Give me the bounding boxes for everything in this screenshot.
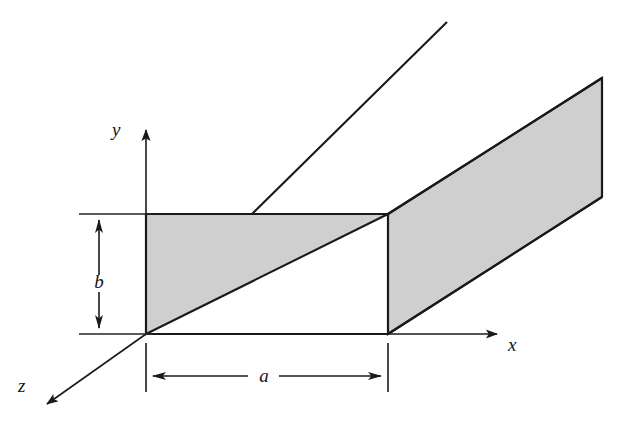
waveguide-far-wall-face [388,78,602,334]
waveguide-top-back-edge [252,22,447,214]
waveguide-diagram-canvas: y x z b a [0,0,626,436]
waveguide-figure: y x z b a [0,0,626,436]
z-axis-label: z [17,375,26,396]
y-axis-label: y [110,119,121,140]
dimension-a-label: a [259,365,269,386]
z-axis-arrow [47,334,146,404]
dimension-b-label: b [94,271,104,292]
x-axis-label: x [507,334,517,355]
